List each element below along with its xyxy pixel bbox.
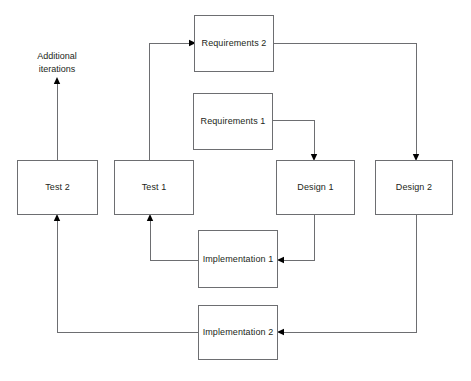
- arrowhead-implementation1-to-test1: [147, 214, 153, 221]
- connector-lines: [57, 43, 416, 332]
- node-label: Requirements 2: [202, 38, 267, 49]
- connector-test1-to-requirements2: [149, 43, 189, 160]
- node-label: Design 2: [396, 182, 432, 193]
- node-label: Implementation 2: [203, 327, 274, 338]
- iterative-development-diagram: Requirements 2 Requirements 1 Test 2 Tes…: [0, 0, 471, 381]
- connector-design2-to-implementation2: [284, 215, 416, 332]
- node-label: Requirements 1: [201, 116, 266, 127]
- node-test-2[interactable]: Test 2: [17, 160, 98, 215]
- node-label: Test 1: [142, 182, 167, 193]
- node-requirements-1[interactable]: Requirements 1: [193, 93, 273, 150]
- node-label: Design 1: [297, 182, 333, 193]
- connector-implementation1-to-test1: [150, 221, 198, 260]
- arrow-heads: [54, 40, 419, 335]
- node-test-1[interactable]: Test 1: [114, 160, 194, 215]
- additional-iterations-annotation: Additional iterations: [17, 50, 97, 76]
- node-label: Test 2: [45, 182, 70, 193]
- arrowhead-implementation2-to-test2: [54, 214, 60, 221]
- node-design-2[interactable]: Design 2: [375, 160, 453, 215]
- node-implementation-1[interactable]: Implementation 1: [198, 230, 278, 288]
- connector-design1-to-implementation1: [284, 215, 314, 260]
- arrowhead-design2-to-implementation2: [277, 329, 284, 335]
- arrowhead-design1-to-implementation1: [277, 257, 284, 263]
- node-implementation-2[interactable]: Implementation 2: [198, 305, 278, 360]
- annotation-line-1: Additional: [17, 50, 97, 63]
- connector-implementation2-to-test2: [57, 221, 198, 332]
- node-label: Implementation 1: [203, 254, 274, 265]
- connector-requirements1-to-design1: [273, 120, 314, 154]
- node-design-1[interactable]: Design 1: [276, 160, 355, 215]
- annotation-line-2: iterations: [17, 63, 97, 76]
- arrowhead-test2-to-additional-iterations: [54, 77, 60, 84]
- node-requirements-2[interactable]: Requirements 2: [194, 15, 274, 72]
- connector-requirements2-to-design2: [274, 43, 416, 154]
